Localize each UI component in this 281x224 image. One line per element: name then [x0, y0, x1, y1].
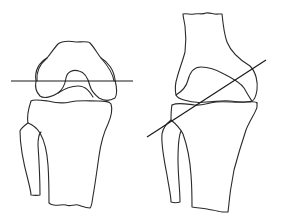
- lateral-view-panel: [147, 13, 266, 212]
- lateral-tibia: [171, 103, 257, 212]
- frontal-femur: [36, 41, 117, 100]
- lateral-femoral-condyle: [176, 67, 252, 101]
- knee-diagram: [0, 0, 281, 224]
- frontal-fibula: [20, 123, 41, 195]
- frontal-view-panel: [11, 41, 133, 208]
- lateral-tibial-plateau: [172, 102, 257, 105]
- lateral-fibula: [162, 120, 181, 203]
